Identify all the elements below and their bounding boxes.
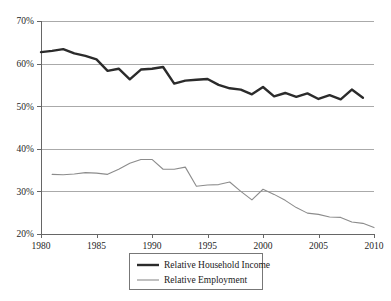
legend-label-employment: Relative Employment [164, 275, 247, 285]
y-axis-tick-labels: 20%30%40%50%60%70% [17, 16, 35, 239]
line-chart: 20%30%40%50%60%70% 198019851990199520002… [0, 0, 391, 301]
x-axis-label-1995: 1995 [198, 241, 217, 251]
y-axis-label-30: 30% [17, 187, 35, 197]
series-line-household-income [41, 49, 363, 99]
x-axis-label-1980: 1980 [32, 241, 51, 251]
x-axis-label-2010: 2010 [365, 241, 384, 251]
chart-container: 20%30%40%50%60%70% 198019851990199520002… [0, 0, 391, 301]
x-axis-label-1990: 1990 [143, 241, 162, 251]
axes [37, 21, 375, 238]
y-axis-label-70: 70% [17, 16, 35, 26]
y-axis-label-60: 60% [17, 59, 35, 69]
x-axis-label-1985: 1985 [87, 241, 106, 251]
x-axis-label-2000: 2000 [254, 241, 273, 251]
y-axis-label-40: 40% [17, 144, 35, 154]
gridlines [41, 22, 374, 235]
y-axis-label-20: 20% [17, 229, 35, 239]
y-axis-label-50: 50% [17, 102, 35, 112]
x-axis-label-2005: 2005 [309, 241, 328, 251]
x-axis-tick-labels: 1980198519901995200020052010 [32, 241, 384, 251]
legend-label-household-income: Relative Household Income [164, 260, 270, 270]
series-line-employment [52, 159, 374, 227]
chart-legend: Relative Household IncomeRelative Employ… [130, 254, 271, 290]
data-series [41, 49, 374, 227]
